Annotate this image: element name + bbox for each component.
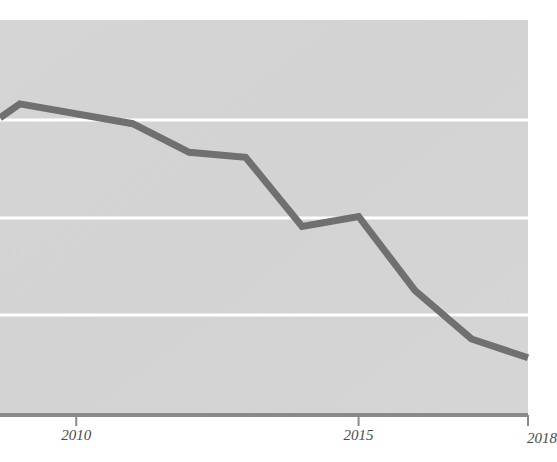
x-tick-label-2015: 2015 <box>344 427 375 443</box>
line-chart: 2010 2015 2018 <box>0 0 557 462</box>
x-tick-label-2018: 2018 <box>527 430 557 446</box>
x-tick-label-2010: 2010 <box>61 427 92 443</box>
chart-page: 2010 2015 2018 <box>0 0 557 462</box>
